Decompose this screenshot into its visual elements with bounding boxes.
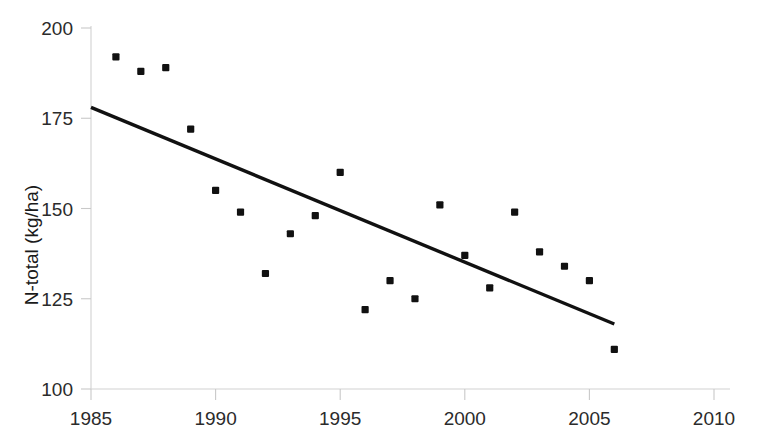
x-axis-ticks (91, 389, 714, 400)
data-point: 1998: 125 (411, 295, 418, 302)
x-tick-label-1990: 1990 (194, 408, 236, 429)
data-point: 1994: 148 (312, 212, 319, 219)
y-axis-title: N-total (kg/ha) (21, 185, 42, 305)
data-point: 1999: 151 (436, 201, 443, 208)
trend-line (91, 107, 614, 324)
y-tick-label-150: 150 (41, 199, 73, 220)
data-points-group: 1986: 1921987: 1881988: 1891989: 1721990… (112, 53, 618, 353)
data-point: 2001: 128 (486, 284, 493, 291)
data-point: 2005: 130 (586, 277, 593, 284)
data-point: 2003: 138 (536, 248, 543, 255)
x-tick-label-2005: 2005 (568, 408, 610, 429)
data-point: 1987: 188 (137, 68, 144, 75)
y-axis-ticks (81, 28, 91, 389)
x-axis-tick-labels: 198519901995200020052010 (70, 408, 735, 429)
y-tick-label-100: 100 (41, 379, 73, 400)
x-tick-label-1985: 1985 (70, 408, 112, 429)
data-point: 1995: 160 (337, 169, 344, 176)
chart-container: 100125150175200 198519901995200020052010… (0, 0, 763, 442)
y-tick-label-125: 125 (41, 289, 73, 310)
data-point: 1993: 143 (287, 230, 294, 237)
data-point: 1986: 192 (112, 53, 119, 60)
x-tick-label-1995: 1995 (319, 408, 361, 429)
x-tick-label-2000: 2000 (444, 408, 486, 429)
data-point: 2000: 137 (461, 252, 468, 259)
data-point: 2002: 149 (511, 209, 518, 216)
y-tick-label-200: 200 (41, 18, 73, 39)
data-point: 2006: 111 (611, 346, 618, 353)
x-tick-label-2010: 2010 (693, 408, 735, 429)
y-axis-tick-labels: 100125150175200 (41, 18, 73, 400)
data-point: 1989: 172 (187, 125, 194, 132)
data-point: 1996: 122 (362, 306, 369, 313)
data-point: 1997: 130 (386, 277, 393, 284)
scatter-plot: 100125150175200 198519901995200020052010… (0, 0, 763, 442)
data-point: 1992: 132 (262, 270, 269, 277)
data-point: 2004: 134 (561, 263, 568, 270)
data-point: 1991: 149 (237, 209, 244, 216)
data-point: 1990: 155 (212, 187, 219, 194)
y-tick-label-175: 175 (41, 108, 73, 129)
data-point: 1988: 189 (162, 64, 169, 71)
